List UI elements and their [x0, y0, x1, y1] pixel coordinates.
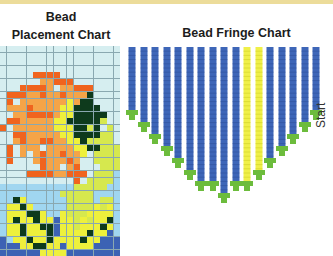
fringe-strand: [313, 47, 320, 110]
fringe-end-bead: [276, 146, 288, 151]
fringe-end-bead: [241, 181, 253, 186]
fringe-end-bead: [287, 134, 299, 139]
fringe-end-bead: [264, 158, 276, 163]
bead-fringe-chart: [0, 0, 333, 256]
fringe-end-bead: [195, 181, 207, 186]
fringe-end-bead: [207, 181, 219, 186]
fringe-strand: [221, 47, 228, 193]
fringe-strand: [256, 47, 263, 170]
fringe-end-bead: [253, 170, 265, 175]
fringe-end-bead: [149, 134, 161, 139]
fringe-end-bead: [184, 170, 196, 175]
fringe-end-bead: [126, 110, 138, 115]
fringe-end-bead: [218, 193, 230, 198]
fringe-end-bead: [299, 122, 311, 127]
fringe-strand: [141, 47, 148, 122]
fringe-strand: [129, 47, 136, 110]
fringe-strand: [290, 47, 297, 134]
fringe-strand: [152, 47, 159, 134]
fringe-strand: [187, 47, 194, 170]
fringe-end-bead: [230, 181, 242, 186]
start-label: Start: [314, 103, 328, 128]
fringe-strand: [302, 47, 309, 122]
fringe-end-bead: [172, 158, 184, 163]
fringe-end-bead: [161, 146, 173, 151]
fringe-end-bead: [138, 122, 150, 127]
